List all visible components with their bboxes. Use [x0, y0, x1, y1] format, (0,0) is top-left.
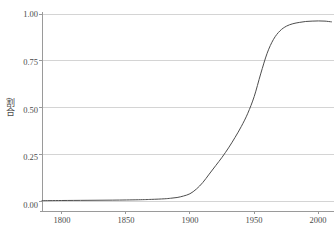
- gridlines: [42, 14, 334, 201]
- axis-lines: [40, 12, 334, 211]
- plot-area: [0, 0, 336, 251]
- data-series-line: [42, 21, 331, 201]
- chart-container: 割合 1.00 0.75 0.50 0.25 0.00 1800 1850 19…: [0, 0, 336, 251]
- tick-marks: [39, 14, 319, 214]
